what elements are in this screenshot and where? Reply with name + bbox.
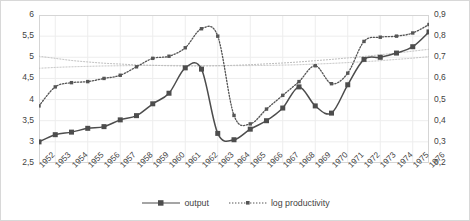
data-point [330,82,333,85]
x-axis-labels: 1952195319541955195619571958195919601961… [39,164,429,198]
data-point [151,57,154,60]
data-point [184,46,187,49]
data-point [410,44,415,49]
series-log-productivity [39,23,429,126]
data-point [329,111,334,116]
legend-item-log-productivity[interactable]: log productivity [229,198,330,208]
data-point [102,77,105,80]
data-point [362,57,367,62]
legend-swatch-output [142,198,180,208]
series-output [39,29,429,144]
chart-legend: output log productivity [1,198,470,208]
y-axis-right-tick: 0,9 [434,10,468,19]
data-point [39,139,42,144]
y-axis-right-tick: 0,4 [434,116,468,125]
data-point [297,84,302,89]
y-axis-right-tick: 0,5 [434,95,468,104]
data-point [167,91,172,96]
data-point [346,71,349,74]
plot-canvas [39,15,429,163]
data-point [281,94,284,97]
data-point [39,104,41,107]
data-point [102,124,107,129]
data-point [394,51,399,56]
legend-swatch-log-productivity [229,198,267,208]
data-point [264,118,269,123]
data-point [411,31,414,34]
y-axis-right-tick: 0,8 [434,31,468,40]
data-point [200,27,203,30]
data-point [248,127,253,132]
data-point [70,81,73,84]
data-point [199,67,204,72]
data-point [134,113,139,118]
data-point [427,23,429,26]
data-point [313,103,318,108]
data-point [135,65,138,68]
data-point [395,34,398,37]
data-point [150,101,155,106]
legend-label-output: output [184,199,208,208]
y-axis-right-tick: 0,6 [434,73,468,82]
data-point [297,80,300,83]
data-point [118,117,123,122]
data-point [215,131,220,136]
data-point [427,29,430,34]
series-trend-lower [39,57,429,69]
data-point [265,107,268,110]
data-point [249,122,252,125]
data-point [232,114,235,117]
data-point [345,82,350,87]
legend-label-log-productivity: log productivity [271,199,330,208]
data-point [362,40,365,43]
data-point [119,74,122,77]
y-axis-right-tick: 0,7 [434,52,468,61]
data-point [378,55,383,60]
data-point [54,85,57,88]
data-point [86,80,89,83]
series-layer [39,23,429,145]
data-point [314,64,317,67]
data-point [232,137,237,142]
data-point [183,65,188,70]
data-point [379,36,382,39]
data-point [280,106,285,111]
data-point [216,34,219,37]
y-axis-right-tick: 0,3 [434,137,468,146]
legend-item-output[interactable]: output [142,198,208,208]
data-point [167,55,170,58]
plot-area [39,15,429,163]
data-point [85,126,90,131]
data-point [69,130,74,135]
chart-figure: 2,533,544,555,56 0,20,30,40,50,60,70,80,… [0,0,470,221]
data-point [53,132,58,137]
